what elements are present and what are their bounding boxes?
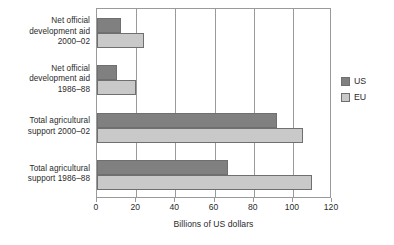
category-label-line: Total agricultural xyxy=(0,116,90,127)
legend-swatch-icon xyxy=(341,77,350,86)
legend-item-eu[interactable]: EU xyxy=(341,90,391,104)
category-label-0: Net officialdevelopment aid2000–02 xyxy=(0,16,90,48)
bar-us-2 xyxy=(97,113,277,128)
category-label-line: development aid xyxy=(0,27,90,38)
x-axis: 020406080100120 xyxy=(96,198,331,218)
bar-eu-2 xyxy=(97,128,303,143)
category-label-line: Total agricultural xyxy=(0,164,90,175)
category-label-line: support 1986–88 xyxy=(0,174,90,185)
category-axis-labels: Net officialdevelopment aid2000–02Net of… xyxy=(0,8,92,198)
bar-eu-1 xyxy=(97,80,136,95)
gridline xyxy=(254,9,255,197)
bar-us-0 xyxy=(97,18,121,33)
category-label-2: Total agriculturalsupport 2000–02 xyxy=(0,116,90,137)
category-label-line: 1986–88 xyxy=(0,85,90,96)
category-label-line: Net official xyxy=(0,64,90,75)
bar-us-3 xyxy=(97,160,228,175)
gridline xyxy=(293,9,294,197)
x-axis-title: Billions of US dollars xyxy=(96,219,331,229)
x-tick-label-5: 100 xyxy=(277,202,307,212)
legend: USEU xyxy=(341,74,391,106)
x-tick-label-0: 0 xyxy=(81,202,111,212)
category-label-line: Net official xyxy=(0,16,90,27)
category-label-3: Total agriculturalsupport 1986–88 xyxy=(0,164,90,185)
category-label-1: Net officialdevelopment aid1986–88 xyxy=(0,64,90,96)
x-tick-label-3: 60 xyxy=(199,202,229,212)
legend-label: US xyxy=(354,76,366,86)
x-tick-label-6: 120 xyxy=(316,202,346,212)
legend-label: EU xyxy=(354,92,366,102)
x-tick-label-2: 40 xyxy=(159,202,189,212)
category-label-line: development aid xyxy=(0,74,90,85)
category-label-line: support 2000–02 xyxy=(0,127,90,138)
x-tick-label-1: 20 xyxy=(120,202,150,212)
bar-chart: Net officialdevelopment aid2000–02Net of… xyxy=(0,0,394,245)
bar-eu-3 xyxy=(97,175,312,190)
bar-eu-0 xyxy=(97,33,144,48)
plot-area xyxy=(96,8,331,198)
category-label-line: 2000–02 xyxy=(0,37,90,48)
x-tick-label-4: 80 xyxy=(238,202,268,212)
bar-us-1 xyxy=(97,65,117,80)
legend-swatch-icon xyxy=(341,93,350,102)
legend-item-us[interactable]: US xyxy=(341,74,391,88)
